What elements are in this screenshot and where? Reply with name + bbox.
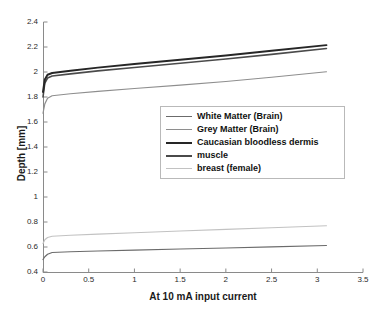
x-tick-label: 3 bbox=[302, 276, 332, 284]
x-axis-tick-labels: 00.511.522.533.5 bbox=[0, 276, 386, 290]
legend-item: Caucasian bloodless dermis bbox=[161, 136, 344, 149]
chart-legend: White Matter (Brain)Grey Matter (Brain)C… bbox=[160, 106, 345, 179]
series-line bbox=[43, 246, 326, 260]
legend-item-label: White Matter (Brain) bbox=[197, 112, 283, 121]
legend-item: Grey Matter (Brain) bbox=[161, 123, 344, 136]
x-tick-label: 2.5 bbox=[257, 276, 287, 284]
x-tick-label: 1 bbox=[119, 276, 149, 284]
x-tick-label: 3.5 bbox=[348, 276, 378, 284]
legend-item-label: Grey Matter (Brain) bbox=[197, 125, 279, 134]
legend-swatch-line-icon bbox=[166, 116, 192, 117]
legend-swatch-line-icon bbox=[166, 155, 192, 157]
legend-item-label: Caucasian bloodless dermis bbox=[197, 138, 319, 147]
legend-item: breast (female) bbox=[161, 162, 344, 175]
x-axis-title: At 10 mA input current bbox=[43, 291, 363, 302]
legend-swatch-line-icon bbox=[166, 142, 192, 144]
legend-swatch-line-icon bbox=[166, 129, 192, 130]
series-line bbox=[43, 226, 326, 244]
x-tick-label: 2 bbox=[211, 276, 241, 284]
legend-item: White Matter (Brain) bbox=[161, 110, 344, 123]
legend-item-label: breast (female) bbox=[197, 164, 261, 173]
x-tick-label: 0 bbox=[28, 276, 58, 284]
legend-item-label: muscle bbox=[197, 151, 228, 160]
legend-swatch-line-icon bbox=[166, 168, 192, 169]
legend-item: muscle bbox=[161, 149, 344, 162]
chart-figure: Depth [mm] 0.40.60.811.21.41.61.822.22.4… bbox=[0, 0, 386, 317]
x-tick-label: 1.5 bbox=[165, 276, 195, 284]
series-line bbox=[43, 49, 326, 98]
x-tick-label: 0.5 bbox=[74, 276, 104, 284]
